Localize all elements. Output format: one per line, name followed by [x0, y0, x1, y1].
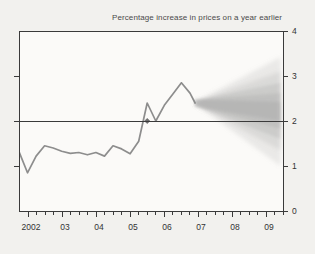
inflation-target-line	[19, 121, 284, 122]
xtick-2009	[266, 211, 267, 217]
xtick-2005q2	[138, 211, 139, 215]
xtick-2002q4	[53, 211, 54, 215]
xtick-2009q2	[274, 211, 275, 215]
xtick-2007q3	[215, 211, 216, 215]
xtick-2006q3	[181, 211, 182, 215]
xtick-2004q3	[113, 211, 114, 215]
ylabel-4: 4	[292, 26, 297, 36]
ylabel-0: 0	[292, 206, 297, 216]
xtick-2007	[198, 211, 199, 217]
xlabel-2002: 2002	[22, 222, 41, 232]
ytick-right-2	[283, 121, 288, 122]
xlabel-07: 07	[196, 222, 205, 232]
ylabel-1: 1	[292, 161, 297, 171]
xtick-2002	[28, 211, 29, 217]
xtick-2008q4	[257, 211, 258, 215]
ytick-left-3	[14, 76, 19, 77]
xtick-2006q4	[189, 211, 190, 215]
xtick-2007q2	[206, 211, 207, 215]
xtick-2004q4	[121, 211, 122, 215]
ytick-right-3	[283, 76, 288, 77]
ytick-right-1	[283, 166, 288, 167]
xtick-2007q4	[223, 211, 224, 215]
xlabel-04: 04	[94, 222, 103, 232]
xtick-2004q2	[104, 211, 105, 215]
fan-chart: Percentage increase in prices on a year …	[0, 0, 315, 254]
ytick-right-4	[283, 31, 288, 32]
xtick-2003q4	[87, 211, 88, 215]
xtick-2005q4	[155, 211, 156, 215]
xtick-2009q3	[283, 211, 284, 215]
xtick-2005q3	[147, 211, 148, 215]
ylabel-2: 2	[292, 116, 297, 126]
xlabel-03: 03	[60, 222, 69, 232]
xlabel-08: 08	[230, 222, 239, 232]
xtick-2003q3	[79, 211, 80, 215]
chart-title: Percentage increase in prices on a year …	[112, 13, 282, 22]
xtick-2008q3	[249, 211, 250, 215]
xtick-2002q3	[45, 211, 46, 215]
xtick-2006	[164, 211, 165, 217]
xtick-2008	[232, 211, 233, 217]
xlabel-06: 06	[162, 222, 171, 232]
xtick-2008q2	[240, 211, 241, 215]
ylabel-3: 3	[292, 71, 297, 81]
xtick-2005	[130, 211, 131, 217]
xtick-2003	[62, 211, 63, 217]
ytick-right-0	[283, 211, 288, 212]
axis-bottom	[19, 211, 284, 212]
xtick-2006q2	[172, 211, 173, 215]
xtick-2004	[96, 211, 97, 217]
xtick-2002q2	[36, 211, 37, 215]
ytick-left-1	[14, 166, 19, 167]
axis-top	[19, 31, 284, 32]
xtick-2003q2	[70, 211, 71, 215]
xlabel-09: 09	[264, 222, 273, 232]
xlabel-05: 05	[128, 222, 137, 232]
ytick-left-2	[14, 121, 19, 122]
